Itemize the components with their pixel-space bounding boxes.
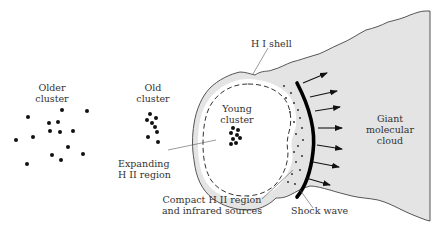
older-cluster-label-line1: Older [22, 82, 82, 93]
hi-shell-label: H I shell [251, 38, 292, 49]
compact-hii-label: Compact H II region and infrared sources [160, 194, 264, 216]
old-cluster-stars [145, 112, 160, 144]
giant-cloud-label: Giant molecular cloud [360, 113, 420, 146]
giant-cloud-label-line1: Giant [360, 113, 420, 124]
expanding-hii-label: Expanding H II region [118, 158, 171, 180]
expanding-hii-label-line1: Expanding [118, 158, 171, 169]
hi-shell-leader [253, 48, 268, 74]
giant-cloud-label-line3: cloud [360, 135, 420, 146]
young-cluster-label: Young cluster [212, 103, 262, 125]
diagram-canvas: Older cluster Old cluster Young cluster … [0, 0, 448, 235]
young-cluster-label-line2: cluster [212, 114, 262, 125]
compact-hii-label-line1: Compact H II region [160, 194, 264, 205]
old-cluster-label: Old cluster [128, 82, 178, 104]
older-cluster-label: Older cluster [22, 82, 82, 104]
expanding-hii-label-line2: H II region [118, 169, 171, 180]
giant-cloud-label-line2: molecular [360, 124, 420, 135]
young-cluster-label-line1: Young [212, 103, 262, 114]
shock-wave-label: Shock wave [291, 205, 348, 216]
old-cluster-label-line1: Old [128, 82, 178, 93]
older-cluster-stars [14, 108, 89, 166]
compact-hii-label-line2: and infrared sources [160, 205, 264, 216]
older-cluster-label-line2: cluster [22, 93, 82, 104]
old-cluster-label-line2: cluster [128, 93, 178, 104]
